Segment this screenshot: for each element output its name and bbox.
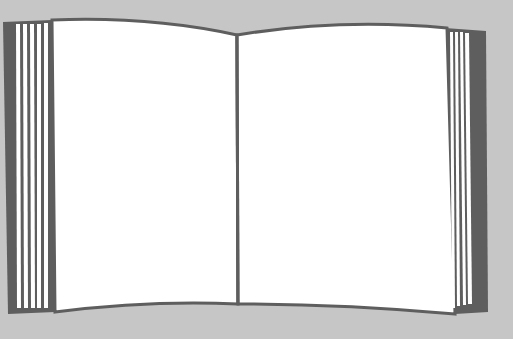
open-book-illustration	[0, 0, 513, 339]
open-book-icon	[0, 0, 513, 339]
